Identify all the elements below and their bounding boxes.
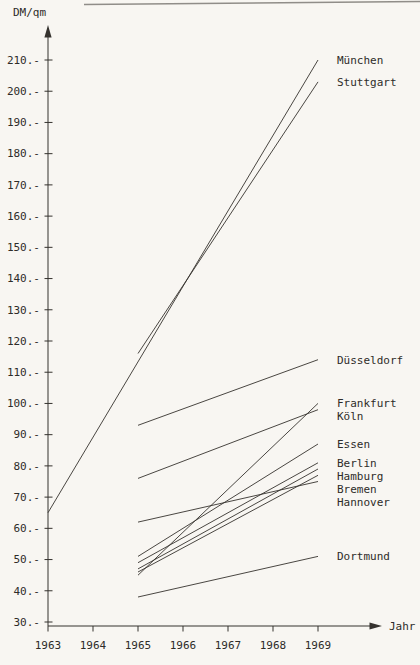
y-tick-label: 100.- xyxy=(7,397,40,410)
series-label-dortmund: Dortmund xyxy=(337,550,390,563)
series-line-essen xyxy=(138,444,318,556)
x-tick-label: 1965 xyxy=(125,639,152,652)
series-label-koeln: Köln xyxy=(337,410,364,423)
series-label-frankfurt: Frankfurt xyxy=(337,397,397,410)
series-label-essen: Essen xyxy=(337,438,370,451)
y-tick-label: 140.- xyxy=(7,272,40,285)
series-line-dortmund xyxy=(138,556,318,597)
chart-page: DM/qm Jahr 210.-200.-190.-180.-170.-160.… xyxy=(0,0,420,665)
x-tick-label: 1964 xyxy=(80,639,107,652)
series-line-koeln xyxy=(138,410,318,479)
y-tick-label: 150.- xyxy=(7,241,40,254)
price-trend-chart: DM/qm Jahr 210.-200.-190.-180.-170.-160.… xyxy=(0,0,420,665)
y-tick-label: 190.- xyxy=(7,116,40,129)
x-tick-label: 1966 xyxy=(170,639,197,652)
y-tick-label: 120.- xyxy=(7,335,40,348)
y-tick-label: 70.- xyxy=(14,491,41,504)
y-tick-label: 180.- xyxy=(7,147,40,160)
axes xyxy=(44,25,382,632)
y-tick-label: 200.- xyxy=(7,85,40,98)
y-axis-unit-label: DM/qm xyxy=(13,6,46,19)
series-label-muenchen: München xyxy=(337,54,383,67)
x-tick-label: 1963 xyxy=(35,639,62,652)
y-tick-label: 30.- xyxy=(14,616,41,629)
y-tick-label: 130.- xyxy=(7,304,40,317)
x-tick-label: 1968 xyxy=(260,639,287,652)
series-line-stuttgart xyxy=(138,82,318,354)
series-line-berlin xyxy=(138,463,318,563)
y-tick-label: 90.- xyxy=(14,428,41,441)
y-tick-label: 60.- xyxy=(14,522,41,535)
series-label-hannover: Hannover xyxy=(337,496,390,509)
scan-edge-artifact xyxy=(84,2,420,5)
x-axis-arrow-icon xyxy=(370,622,383,629)
y-tick-label: 80.- xyxy=(14,460,41,473)
x-tick-label: 1969 xyxy=(305,639,332,652)
series-line-hamburg xyxy=(138,469,318,569)
y-tick-label: 160.- xyxy=(7,210,40,223)
series-label-berlin: Berlin xyxy=(337,457,377,470)
series-line-hannover xyxy=(138,482,318,523)
y-tick-label: 50.- xyxy=(14,553,41,566)
y-tick-label: 210.- xyxy=(7,54,40,67)
y-axis-arrow-icon xyxy=(44,25,51,38)
y-tick-label: 110.- xyxy=(7,366,40,379)
y-tick-label: 170.- xyxy=(7,179,40,192)
y-tick-label: 40.- xyxy=(14,585,41,598)
series-label-stuttgart: Stuttgart xyxy=(337,76,397,89)
x-axis-unit-label: Jahr xyxy=(389,620,416,633)
x-tick-label: 1967 xyxy=(215,639,242,652)
series-label-hamburg: Hamburg xyxy=(337,470,383,483)
series-line-duesseldorf xyxy=(138,360,318,426)
series-label-duesseldorf: Düsseldorf xyxy=(337,354,403,367)
series-label-bremen: Bremen xyxy=(337,483,377,496)
chart-render-root: 210.-200.-190.-180.-170.-160.-150.-140.-… xyxy=(7,2,420,653)
